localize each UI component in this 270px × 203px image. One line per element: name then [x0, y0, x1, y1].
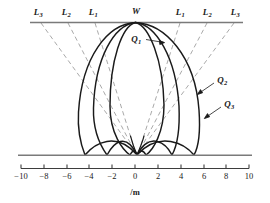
label-Q1: Q1 — [131, 35, 141, 44]
label-L1-left-sub: 1 — [94, 11, 97, 18]
axis-tick-label: −4 — [84, 172, 93, 181]
label-L3-left-name: L — [34, 7, 40, 17]
axis-tick-label: −6 — [62, 172, 71, 181]
leader-Q1 — [146, 40, 165, 45]
label-L2-right-name: L — [203, 7, 209, 17]
ray-L2-right — [138, 23, 207, 154]
axis-tick-label: 8 — [224, 172, 228, 181]
leader-Q3 — [204, 107, 221, 119]
ray-L3-left — [41, 23, 136, 154]
axis-tick-label: −8 — [39, 172, 48, 181]
axis-tick-label: 4 — [179, 172, 183, 181]
figure-container: L3 L2 L1 W L1 L2 L3 Q1 Q2 Q3 −10 −8 −6 −… — [0, 0, 270, 203]
axis-tick-label: 10 — [245, 172, 254, 181]
label-W: W — [132, 7, 140, 16]
label-Q1-sub: 1 — [138, 38, 141, 45]
label-L2-right: L2 — [203, 8, 212, 17]
label-L3-right-name: L — [231, 7, 237, 17]
label-L1-left: L1 — [89, 8, 98, 17]
leader-Q2 — [197, 83, 214, 95]
label-L3-right: L3 — [231, 8, 240, 17]
label-L1-right-name: L — [176, 7, 182, 17]
label-W-name: W — [132, 6, 140, 16]
label-Q2-sub: 2 — [224, 79, 227, 86]
axis-tick-label: 0 — [133, 172, 137, 181]
label-L1-right: L1 — [176, 8, 185, 17]
label-L3-left: L3 — [34, 8, 43, 17]
axis-tick-label: −2 — [107, 172, 116, 181]
label-L3-left-sub: 3 — [39, 11, 42, 18]
axis-tick-label: 6 — [202, 172, 206, 181]
label-L1-left-name: L — [89, 7, 95, 17]
label-Q2-name: Q — [217, 75, 224, 85]
label-L2-right-sub: 2 — [208, 11, 211, 18]
label-L2-left: L2 — [62, 8, 71, 17]
label-Q3: Q3 — [224, 100, 234, 109]
label-L3-right-sub: 3 — [236, 11, 239, 18]
label-Q3-name: Q — [224, 99, 231, 109]
label-Q3-sub: 3 — [231, 103, 234, 110]
axis-tick-label: 2 — [156, 172, 160, 181]
axis-tick-label: −10 — [14, 172, 27, 181]
label-L1-right-sub: 1 — [181, 11, 184, 18]
label-L2-left-sub: 2 — [67, 11, 70, 18]
axis-unit-label: /m — [130, 188, 139, 197]
label-L2-left-name: L — [62, 7, 68, 17]
label-Q2: Q2 — [217, 76, 227, 85]
ray-L2-left — [68, 23, 136, 154]
label-Q1-name: Q — [131, 34, 138, 44]
axis-ticks — [21, 165, 249, 169]
